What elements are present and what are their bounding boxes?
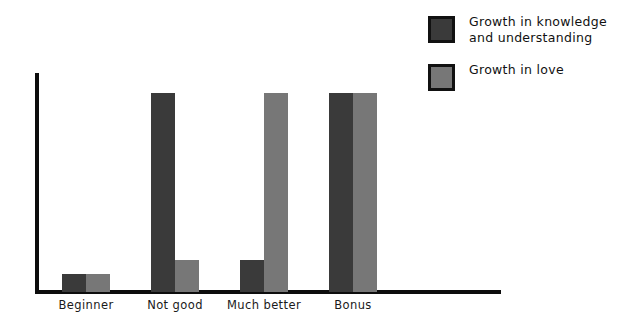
legend-label: Growth in knowledge and understanding xyxy=(469,14,607,46)
bar xyxy=(86,274,110,292)
bar-chart: BeginnerNot goodMuch betterBonus Growth … xyxy=(0,0,640,336)
bar xyxy=(353,93,377,292)
bar-group xyxy=(62,73,110,292)
x-axis-tick-label: Bonus xyxy=(293,298,413,312)
bar xyxy=(62,274,86,292)
legend-swatch-icon xyxy=(428,64,455,91)
bar xyxy=(264,93,288,292)
bar-group xyxy=(151,73,199,292)
bar xyxy=(175,260,199,292)
bar xyxy=(240,260,264,292)
legend-swatch-icon xyxy=(428,16,455,43)
legend-label: Growth in love xyxy=(469,62,564,78)
chart-legend: Growth in knowledge and understanding Gr… xyxy=(428,14,636,107)
bar-group xyxy=(240,73,288,292)
legend-item: Growth in knowledge and understanding xyxy=(428,14,636,46)
bar xyxy=(151,93,175,292)
bar xyxy=(329,93,353,292)
bar-group xyxy=(329,73,377,292)
legend-item: Growth in love xyxy=(428,62,636,91)
